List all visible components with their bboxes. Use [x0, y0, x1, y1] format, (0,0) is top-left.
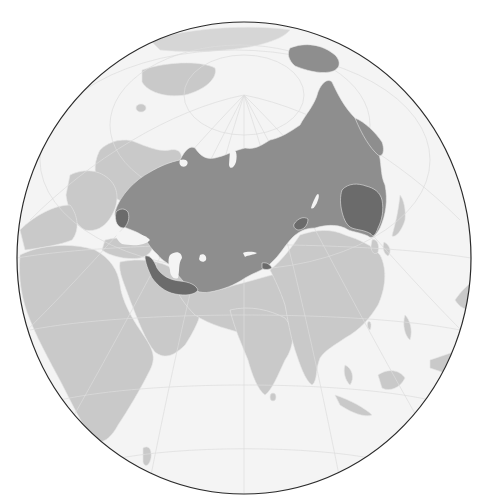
globe-svg [0, 0, 485, 504]
globe-map: Locator map: Russian Empire and annexed … [0, 0, 485, 504]
